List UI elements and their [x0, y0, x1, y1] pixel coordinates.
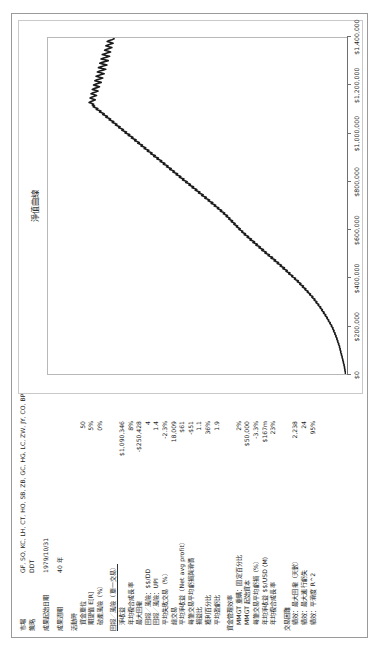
axis-tick [347, 181, 351, 182]
stat-label: 期望值 E[R] [88, 591, 94, 625]
stat-label: 資金管理效率 [227, 594, 233, 631]
stat-value: 18,009 [171, 421, 177, 442]
chart-title: 淨值曲線 [28, 19, 40, 393]
axis-tick [347, 277, 351, 278]
stat-value: 95% [310, 421, 316, 435]
stat-row: 年均複合成長率23% [270, 399, 279, 631]
stat-value: 5% [88, 421, 94, 431]
stat-value: -$51 [188, 421, 194, 435]
stat-label: 回報／風險：$$/DD [145, 569, 151, 625]
stat-row: 績效：平滑度 R^295% [310, 399, 319, 631]
equity-curve-line [48, 38, 346, 374]
chart-value-axis [347, 37, 348, 375]
stat-value: -$250,428 [136, 421, 142, 452]
stat-value: $61 [179, 421, 185, 433]
stat-value: 24 [301, 421, 307, 429]
stat-label: 績效：最大連行虧失 [301, 570, 307, 625]
stat-label: 淨收益 [119, 607, 125, 625]
stat-label: MMGT 起始資本 [244, 579, 250, 625]
stat-value: -3.3% [253, 421, 259, 439]
stat-value: 0% [97, 421, 103, 431]
stat-label: 平均淨收益（Net avg profit） [179, 539, 185, 625]
stat-row: 平均盈虧比1.9 [214, 399, 223, 631]
stat-label: 市場 [20, 619, 26, 631]
stat-label: 成果起始日期 [43, 594, 49, 631]
stat-label: MMGT 重購：固定百分比 [236, 555, 242, 625]
axis-tick-label: $600,000 [353, 215, 360, 245]
axis-tick [347, 84, 351, 85]
stat-label: 資金單位 [80, 601, 86, 625]
stat-label: 年均淨收益 $$/USD (M) [262, 557, 268, 625]
stat-label: 總交易 [171, 607, 177, 625]
stat-value: 8% [128, 421, 134, 431]
stat-value: 2% [236, 421, 242, 431]
stat-label: 交易困難 [284, 607, 290, 631]
stat-row: 破產風險（%）0% [97, 399, 106, 631]
stat-label: 最大回撤 [136, 601, 142, 625]
axis-tick [347, 36, 351, 37]
stat-label: 績效：最大回撤（天數） [292, 558, 298, 625]
stat-label: 平均失敗交易（%） [162, 570, 168, 625]
axis-tick-label: $1,200,000 [353, 68, 360, 103]
equity-curve-chart: 淨值曲線 $0$200,000$400,000$600,000$800,000$… [18, 20, 363, 394]
stat-value: 1.9 [214, 421, 220, 431]
stat-label: 破產風險（%） [97, 583, 103, 626]
stat-value: 40 年 [57, 557, 63, 573]
stat-value: 4 [145, 421, 151, 425]
axis-tick-label: $0 [353, 371, 360, 379]
stat-label: 成果週期 [57, 607, 63, 631]
stat-label: 獲利百分比 [205, 595, 211, 626]
axis-tick [347, 374, 351, 375]
stat-value: 50 [80, 421, 86, 429]
stat-value: 36% [205, 421, 211, 435]
statistics-panel: 市場GF, SO, KC, LH, CT, HO, SB, ZB, GC, HG… [16, 399, 364, 631]
stat-row: 市場GF, SO, KC, LH, CT, HO, SB, ZB, GC, HG… [20, 399, 29, 631]
stat-value: 1.1 [196, 421, 202, 431]
stat-label: 策略 [29, 619, 35, 631]
stat-value: 1979/10/31 [43, 538, 49, 573]
stat-value: $50,000 [244, 421, 250, 446]
stat-value: 1.4 [153, 421, 159, 431]
axis-tick-label: $1,400,000 [353, 19, 360, 54]
stat-label: 損益比 [196, 607, 202, 625]
stat-value: 2,238 [292, 421, 298, 438]
axis-tick-label: $400,000 [353, 264, 360, 294]
stat-row: 成果週期40 年 [57, 399, 66, 631]
stat-value: $167m [262, 421, 268, 442]
axis-tick [347, 326, 351, 327]
stat-label: 每筆交易平均虧損與滑價 [188, 558, 194, 625]
chart-plot-area [47, 37, 347, 375]
report-sheet: 市場GF, SO, KC, LH, CT, HO, SB, ZB, GC, HG… [11, 13, 368, 638]
stat-label: 績效：平滑度 R^2 [310, 573, 316, 625]
axis-tick-label: $200,000 [353, 312, 360, 342]
stat-value: -2.3% [162, 421, 168, 439]
stat-row: 策略DDT [29, 399, 38, 631]
stat-row: 成果起始日期1979/10/31 [43, 399, 52, 631]
stat-label: 每筆交易平均虧損（%） [253, 558, 259, 625]
stat-value: $1,090,346 [119, 421, 125, 456]
axis-tick [347, 229, 351, 230]
axis-tick-label: $1,000,000 [353, 116, 360, 151]
stat-label: 回報／風險：UPI [153, 578, 159, 625]
axis-tick [347, 133, 351, 134]
rotated-page-canvas: 市場GF, SO, KC, LH, CT, HO, SB, ZB, GC, HG… [0, 0, 381, 650]
stat-label: 活動時 [71, 613, 77, 631]
stat-value: DDT [29, 560, 35, 573]
stat-label: 年均複合成長率 [270, 582, 276, 625]
axis-tick-label: $800,000 [353, 167, 360, 197]
stat-value: 23% [270, 421, 276, 435]
stat-label: 平均盈虧比 [214, 595, 220, 626]
stat-label: 回報／風險（單一交易） [110, 564, 118, 631]
stat-label: 年均複合成長率 [128, 582, 134, 625]
